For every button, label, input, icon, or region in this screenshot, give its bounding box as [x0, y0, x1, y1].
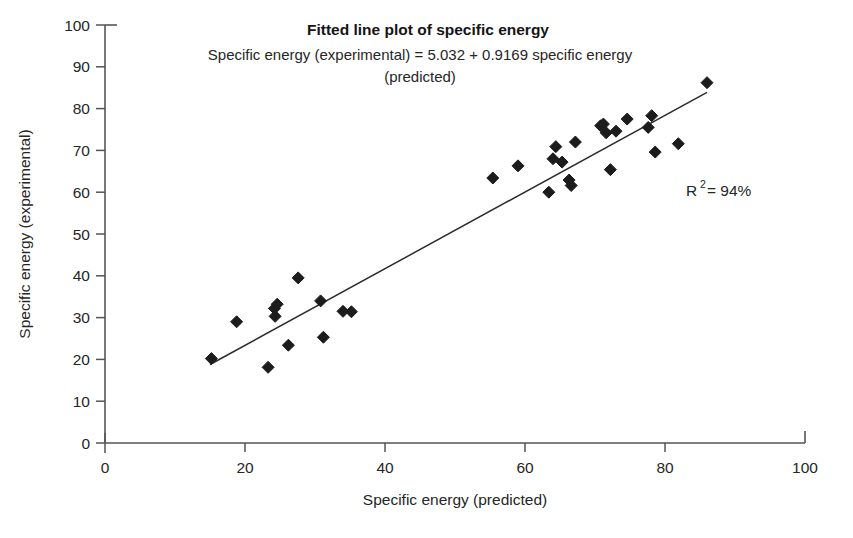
data-point-marker	[231, 316, 243, 328]
regression-fit-line	[210, 92, 707, 364]
data-point-marker	[487, 172, 499, 184]
data-point-marker	[569, 136, 581, 148]
x-tick-label: 60	[516, 459, 534, 476]
data-point-group	[205, 77, 713, 374]
y-tick-label: 80	[73, 100, 91, 117]
scatter-chart-canvas: Fitted line plot of specific energy Spec…	[0, 0, 853, 538]
y-tick-label: 40	[73, 267, 91, 284]
y-axis-ticks: 0102030405060708090100	[64, 17, 105, 452]
data-point-marker	[345, 306, 357, 318]
data-point-marker	[604, 164, 616, 176]
x-tick-label: 0	[101, 459, 110, 476]
x-tick-label: 20	[236, 459, 254, 476]
data-point-marker	[642, 121, 654, 133]
x-tick-label: 100	[792, 459, 818, 476]
data-point-marker	[512, 160, 524, 172]
chart-title: Fitted line plot of specific energy	[307, 21, 549, 38]
r-squared-exponent: 2	[700, 178, 706, 190]
fitted-line-plot-figure: Fitted line plot of specific energy Spec…	[0, 0, 853, 538]
y-tick-label: 20	[73, 351, 91, 368]
r-squared-value: = 94%	[707, 182, 752, 199]
r-squared-annotation: R 2 = 94%	[686, 178, 752, 199]
x-tick-label: 40	[376, 459, 394, 476]
data-point-marker	[672, 138, 684, 150]
data-point-marker	[610, 125, 622, 137]
r-squared-symbol: R	[686, 182, 697, 199]
chart-subtitle-line-1: Specific energy (experimental) = 5.032 +…	[208, 46, 633, 63]
y-axis-label: Specific energy (experimental)	[16, 129, 33, 338]
y-tick-label: 50	[73, 226, 91, 243]
axes-group	[105, 25, 805, 443]
y-tick-label: 60	[73, 184, 91, 201]
y-tick-label: 30	[73, 309, 91, 326]
data-point-marker	[649, 146, 661, 158]
data-point-marker	[282, 339, 294, 351]
x-axis-label: Specific energy (predicted)	[363, 491, 547, 508]
data-point-marker	[262, 361, 274, 373]
data-point-marker	[621, 113, 633, 125]
x-axis-ticks: 020406080100	[101, 433, 819, 476]
y-tick-label: 10	[73, 393, 91, 410]
y-tick-label: 0	[81, 435, 90, 452]
data-point-marker	[315, 295, 327, 307]
x-tick-label: 80	[656, 459, 674, 476]
data-point-marker	[205, 353, 217, 365]
data-point-marker	[317, 331, 329, 343]
y-tick-label: 70	[73, 142, 91, 159]
data-point-marker	[292, 272, 304, 284]
chart-subtitle-line-2: (predicted)	[384, 68, 456, 85]
y-tick-label: 100	[64, 17, 90, 34]
data-point-marker	[701, 77, 713, 89]
data-point-marker	[269, 310, 281, 322]
data-point-marker	[550, 141, 562, 153]
y-tick-label: 90	[73, 58, 91, 75]
data-point-marker	[543, 186, 555, 198]
